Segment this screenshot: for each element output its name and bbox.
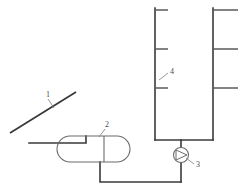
radiator-group xyxy=(155,8,238,140)
storage-tank-group xyxy=(57,136,130,162)
leader-line-4 xyxy=(159,73,168,80)
schematic-canvas: 1 2 3 4 xyxy=(0,0,240,194)
callout-label-2: 2 xyxy=(105,120,109,129)
callout-labels: 1 2 3 4 xyxy=(46,67,200,169)
leader-line-3 xyxy=(186,158,194,164)
callout-leaders xyxy=(48,73,194,164)
piping-group xyxy=(29,136,181,182)
circulation-pump-group xyxy=(174,148,189,163)
solar-collector-panel xyxy=(10,92,76,133)
pipe-tank-return xyxy=(100,162,181,182)
callout-label-4: 4 xyxy=(170,67,174,76)
callout-label-1: 1 xyxy=(46,90,50,99)
pipe-collector-to-tank xyxy=(29,136,86,143)
schematic-diagram: 1 2 3 4 xyxy=(0,0,240,194)
callout-label-3: 3 xyxy=(196,160,200,169)
solar-collector-group xyxy=(10,92,76,133)
pump-impeller-icon xyxy=(176,150,187,160)
storage-tank-shell xyxy=(57,136,130,162)
